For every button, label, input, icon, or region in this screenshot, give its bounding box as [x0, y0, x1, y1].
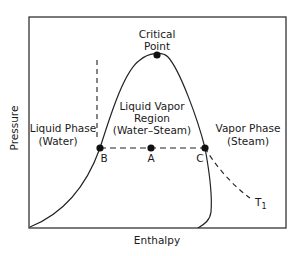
- two-phase-label-2: Region: [134, 112, 170, 124]
- liquid-phase-label-1: Liquid Phase: [30, 122, 96, 134]
- vapor-phase-label-2: (Steam): [227, 135, 269, 147]
- critical-point-label-2: Point: [144, 40, 170, 52]
- isotherm-subscript: 1: [261, 202, 266, 211]
- critical-point-marker: [153, 51, 160, 58]
- x-axis-label: Enthalpy: [134, 234, 180, 246]
- point-a-label: A: [147, 152, 155, 164]
- vapor-phase-label-1: Vapor Phase: [216, 122, 281, 134]
- two-phase-label-1: Liquid Vapor: [119, 100, 185, 112]
- y-axis-label: Pressure: [8, 106, 20, 151]
- point-a-marker: [147, 144, 154, 151]
- point-c-label: C: [196, 152, 203, 164]
- liquid-phase-label-2: (Water): [38, 135, 77, 147]
- critical-point-label-1: Critical: [139, 28, 176, 40]
- point-c-marker: [201, 144, 208, 151]
- isotherm-t1-label: T1: [254, 196, 267, 211]
- phase-diagram: Critical Point Liquid Phase (Water) Liqu…: [0, 0, 301, 256]
- isotherm-t1-dashed: [205, 148, 250, 198]
- point-b-marker: [96, 144, 103, 151]
- point-b-label: B: [100, 152, 107, 164]
- two-phase-label-3: (Water–Steam): [113, 124, 191, 136]
